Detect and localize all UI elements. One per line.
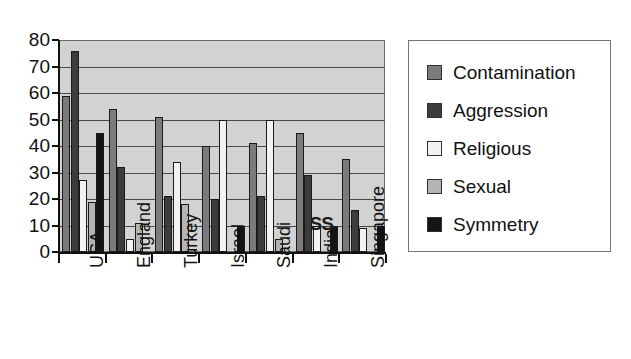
bar [249,143,257,252]
y-axis-tick [52,225,59,227]
y-axis-tick-label: 20 [4,189,50,208]
bar [109,109,117,252]
bar [155,117,163,252]
bar [266,120,274,253]
bar-chart-figure: 80706050403020100 SS USAEnglandTurkeyIsr… [0,0,631,359]
bar [71,51,79,252]
legend-item: Symmetry [427,205,604,243]
legend-label: Religious [453,139,531,158]
gridline [58,93,385,94]
bar [342,159,350,252]
bar [126,239,134,252]
legend-item: Religious [427,129,604,167]
legend-list: ContaminationAggressionReligiousSexualSy… [427,53,604,243]
y-axis-tick [52,92,59,94]
legend-label: Symmetry [453,215,539,234]
y-axis-tick-label: 40 [4,136,50,155]
legend-label: Contamination [453,63,576,82]
y-axis-tick-label: 0 [4,242,50,261]
bar [117,167,125,252]
legend-swatch [427,141,442,156]
x-axis-tick-label: England [135,202,153,268]
y-axis-labels: 80706050403020100 [0,0,50,359]
y-axis-tick-label: 50 [4,110,50,129]
legend-label: Sexual [453,177,511,196]
plot-area: SS [58,40,385,252]
x-axis-tick-label: Singapore [369,186,387,268]
bar [79,180,87,252]
legend-swatch [427,103,442,118]
bar [257,196,265,252]
bar [173,162,181,252]
x-axis-tick [58,254,60,263]
bar [211,199,219,252]
legend-item: Sexual [427,167,604,205]
bar [62,96,70,252]
legend-item: Contamination [427,53,604,91]
y-axis-tick [52,198,59,200]
gridline [58,67,385,68]
y-axis-tick [52,172,59,174]
legend-swatch [427,65,442,80]
y-axis-tick [52,66,59,68]
x-axis-tick-label: Turkey [182,214,200,268]
y-axis-tick [52,145,59,147]
y-axis-tick-label: 10 [4,216,50,235]
bar [219,120,227,253]
x-axis-tick-label: India [322,229,340,268]
y-axis-tick [52,251,59,253]
y-axis-tick [52,119,59,121]
bar [359,228,367,252]
y-axis-tick-label: 70 [4,57,50,76]
legend-swatch [427,217,442,232]
legend-swatch [427,179,442,194]
bar [296,133,304,252]
y-axis-tick [52,39,59,41]
x-axis-tick-label: Israel [229,224,247,268]
bar [164,196,172,252]
bar [202,146,210,252]
bar [351,210,359,252]
x-axis-tick-label: USA [88,231,106,268]
legend-label: Aggression [453,101,548,120]
x-axis-tick-label: Saudi [275,222,293,268]
legend: ContaminationAggressionReligiousSexualSy… [408,40,611,252]
y-axis-tick-label: 60 [4,83,50,102]
legend-item: Aggression [427,91,604,129]
y-axis-tick-label: 80 [4,30,50,49]
y-axis-tick-label: 30 [4,163,50,182]
